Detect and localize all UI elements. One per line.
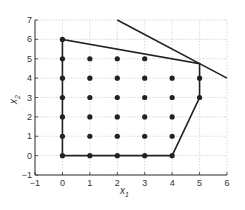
y-tick-labels: −101234567 bbox=[22, 15, 32, 180]
integer-point bbox=[115, 114, 120, 119]
integer-point bbox=[142, 114, 147, 119]
x-tick-label: 6 bbox=[224, 178, 229, 188]
y-tick-label: 7 bbox=[27, 15, 32, 25]
x-tick-label: 4 bbox=[170, 178, 175, 188]
integer-point bbox=[170, 76, 175, 81]
chart-container: −10123456 −101234567 x1 x2 bbox=[0, 0, 245, 210]
integer-point bbox=[115, 95, 120, 100]
integer-point bbox=[115, 56, 120, 61]
integer-point bbox=[170, 134, 175, 139]
integer-point bbox=[170, 153, 175, 158]
y-axis-label: x2 bbox=[8, 95, 21, 105]
integer-point bbox=[60, 76, 65, 81]
integer-point bbox=[115, 76, 120, 81]
y-tick-label: 3 bbox=[27, 93, 32, 103]
integer-point bbox=[60, 153, 65, 158]
integer-point bbox=[142, 76, 147, 81]
integer-point bbox=[60, 134, 65, 139]
integer-point bbox=[60, 114, 65, 119]
integer-point bbox=[60, 95, 65, 100]
x-tick-labels: −10123456 bbox=[30, 178, 230, 188]
integer-point bbox=[87, 76, 92, 81]
integer-point bbox=[142, 56, 147, 61]
integer-point bbox=[142, 134, 147, 139]
x-axis-label: x1 bbox=[119, 185, 129, 198]
integer-point bbox=[170, 114, 175, 119]
integer-point bbox=[142, 95, 147, 100]
integer-point bbox=[170, 95, 175, 100]
integer-point bbox=[87, 153, 92, 158]
integer-point bbox=[87, 95, 92, 100]
integer-point bbox=[87, 56, 92, 61]
x-tick-label: 3 bbox=[142, 178, 147, 188]
chart-svg: −10123456 −101234567 x1 x2 bbox=[0, 0, 245, 210]
integer-point bbox=[60, 37, 65, 42]
integer-point bbox=[60, 56, 65, 61]
y-tick-label: 6 bbox=[27, 34, 32, 44]
integer-point bbox=[115, 134, 120, 139]
y-tick-label: 2 bbox=[27, 112, 32, 122]
x-tick-label: 0 bbox=[60, 178, 65, 188]
x-tick-label: 5 bbox=[197, 178, 202, 188]
x-tick-label: 1 bbox=[87, 178, 92, 188]
integer-point bbox=[142, 153, 147, 158]
integer-point bbox=[87, 134, 92, 139]
integer-point bbox=[87, 114, 92, 119]
integer-point bbox=[115, 153, 120, 158]
y-tick-label: 4 bbox=[27, 73, 32, 83]
integer-point bbox=[197, 95, 202, 100]
y-tick-label: 5 bbox=[27, 54, 32, 64]
y-tick-label: 1 bbox=[27, 131, 32, 141]
y-tick-label: 0 bbox=[27, 151, 32, 161]
y-tick-label: −1 bbox=[22, 170, 32, 180]
integer-point bbox=[197, 76, 202, 81]
